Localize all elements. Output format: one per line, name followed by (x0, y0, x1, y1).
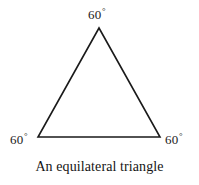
degree-symbol-icon: ° (179, 131, 183, 141)
triangle-shape (0, 0, 199, 185)
angle-label-bottom-right-value: 60 (165, 132, 178, 147)
degree-symbol-icon: ° (102, 6, 106, 16)
angle-label-bottom-left-value: 60 (10, 132, 23, 147)
degree-symbol-icon: ° (24, 131, 28, 141)
angle-label-bottom-right: 60° (165, 132, 183, 146)
angle-label-apex: 60° (88, 7, 106, 21)
figure-caption: An equilateral triangle (0, 159, 199, 175)
triangle-outline (38, 28, 160, 137)
angle-label-bottom-left: 60° (10, 132, 28, 146)
equilateral-triangle-figure: 60° 60° 60° An equilateral triangle (0, 0, 199, 185)
angle-label-apex-value: 60 (88, 7, 101, 22)
